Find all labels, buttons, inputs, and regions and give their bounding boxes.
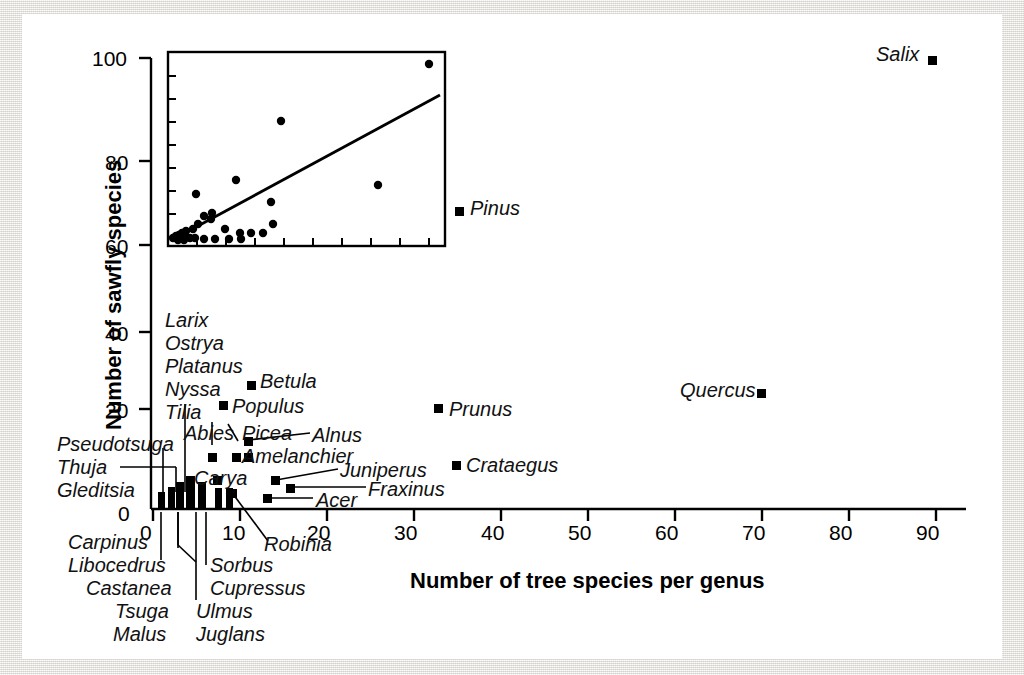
- label-fraxinus: Fraxinus: [368, 479, 445, 499]
- x-tick-40: 40: [481, 522, 504, 543]
- label-malus: Malus: [113, 624, 166, 644]
- label-amelanchier: Amelanchier: [242, 446, 353, 466]
- label-cupressus: Cupressus: [210, 578, 306, 598]
- y-tick-80: 80: [105, 152, 128, 173]
- y-tick-60: 60: [105, 236, 128, 257]
- marker-picea: [232, 453, 241, 462]
- marker-cluster-3: [176, 482, 184, 508]
- inset-bottom-ticks: [197, 238, 429, 246]
- x-tick-80: 80: [829, 522, 852, 543]
- label-abies: Abies: [184, 423, 234, 443]
- label-ostrya: Ostrya: [165, 333, 224, 353]
- marker-populus: [219, 401, 228, 410]
- marker-fraxinus: [286, 484, 295, 493]
- marker-juniperus: [271, 476, 280, 485]
- y-tick-marks: [139, 58, 151, 409]
- y-tick-100: 100: [92, 48, 127, 69]
- x-tick-60: 60: [655, 522, 678, 543]
- label-quercus: Quercus: [680, 380, 756, 400]
- label-robinia: Robinia: [264, 534, 332, 554]
- marker-cluster-2: [168, 487, 175, 508]
- inset-regression-line: [172, 95, 440, 240]
- marker-pinus: [455, 207, 464, 216]
- label-alnus: Alnus: [312, 425, 362, 445]
- inset-data-points: [169, 60, 433, 244]
- label-betula: Betula: [260, 371, 317, 391]
- label-picea: Picea: [242, 423, 292, 443]
- y-axis-title: Number of sawfly species: [103, 160, 125, 430]
- scatter-figure: Number of sawfly species Number of tree …: [0, 0, 1024, 675]
- x-axis-title: Number of tree species per genus: [410, 570, 765, 592]
- y-tick-40: 40: [105, 323, 128, 344]
- marker-cluster-6: [215, 488, 222, 508]
- marker-acer: [263, 494, 272, 503]
- label-ulmus: Ulmus: [196, 601, 253, 621]
- label-pseudotsuga: Pseudotsuga: [57, 434, 174, 454]
- marker-salix: [928, 56, 937, 65]
- label-pinus: Pinus: [470, 198, 520, 218]
- marker-abies: [208, 453, 217, 462]
- inset-frame: [168, 52, 445, 246]
- x-tick-70: 70: [742, 522, 765, 543]
- marker-quercus: [757, 389, 766, 398]
- label-libocedrus: Libocedrus: [68, 555, 166, 575]
- label-thuja: Thuja: [57, 457, 107, 477]
- x-tick-10: 10: [222, 522, 245, 543]
- label-sorbus: Sorbus: [210, 555, 273, 575]
- marker-crataegus: [452, 461, 461, 470]
- x-tick-marks: [153, 509, 936, 521]
- label-larix: Larix: [165, 310, 208, 330]
- label-carya: Carya: [194, 468, 247, 488]
- label-tilia: Tilia: [165, 402, 202, 422]
- marker-cluster-7: [226, 488, 233, 508]
- label-salix: Salix: [876, 44, 919, 64]
- x-tick-50: 50: [568, 522, 591, 543]
- marker-prunus: [434, 404, 443, 413]
- inset-left-ticks: [168, 76, 176, 214]
- label-tsuga: Tsuga: [115, 601, 169, 621]
- x-tick-90: 90: [916, 522, 939, 543]
- label-populus: Populus: [232, 396, 304, 416]
- x-tick-30: 30: [394, 522, 417, 543]
- label-nyssa: Nyssa: [165, 379, 221, 399]
- label-prunus: Prunus: [449, 399, 512, 419]
- marker-cluster-1: [158, 492, 165, 508]
- label-acer: Acer: [316, 490, 357, 510]
- label-juglans: Juglans: [196, 624, 265, 644]
- label-carpinus: Carpinus: [68, 532, 148, 552]
- label-crataegus: Crataegus: [466, 455, 558, 475]
- label-platanus: Platanus: [165, 356, 243, 376]
- label-castanea: Castanea: [86, 578, 172, 598]
- y-tick-20: 20: [105, 400, 128, 421]
- marker-betula: [247, 381, 256, 390]
- label-gleditsia: Gleditsia: [57, 480, 135, 500]
- label-juniperus: Juniperus: [340, 460, 427, 480]
- y-tick-0: 0: [118, 503, 130, 524]
